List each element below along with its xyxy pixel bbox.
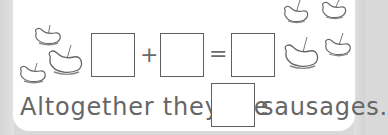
sum-box[interactable] xyxy=(231,33,275,77)
answer-box[interactable] xyxy=(211,83,255,127)
sausage-on-fork-icon xyxy=(46,44,86,78)
sausage-on-fork-icon xyxy=(282,0,310,26)
equals-sign: = xyxy=(209,43,227,65)
sentence-suffix: sausages. xyxy=(261,95,388,119)
sausage-on-fork-icon xyxy=(323,33,353,59)
sausage-on-fork-icon xyxy=(282,36,322,72)
addend-2-box[interactable] xyxy=(160,33,204,77)
addend-1-box[interactable] xyxy=(91,33,135,77)
sausage-on-fork-icon xyxy=(320,0,348,22)
sausage-on-fork-icon xyxy=(18,62,48,86)
plus-sign: + xyxy=(140,44,158,66)
left-margin-strip xyxy=(0,0,14,135)
